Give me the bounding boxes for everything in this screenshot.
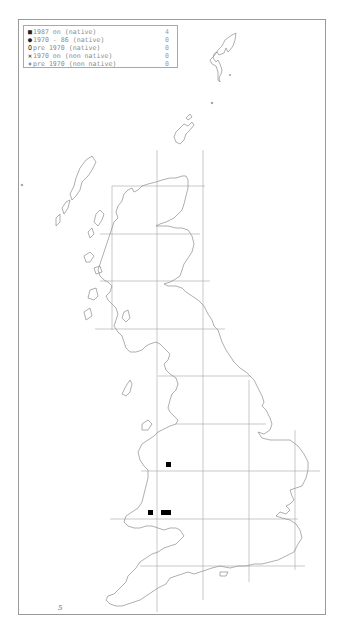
legend-item-1970-86-native: ●1970 - 86 (native) 0 [27,36,175,44]
legend-count: 0 [165,36,169,44]
record-square-icon [166,510,171,515]
legend-label: 1970 on (non native) [33,52,112,60]
legend-item-1970-on-non-native: ✕1970 on (non native) 0 [27,52,175,60]
devon-north-coast [136,536,184,568]
england-south-coast [106,560,278,606]
map-legend: ■1987 on (native) 4 ●1970 - 86 (native) … [23,25,178,68]
legend-count: 0 [165,60,169,68]
gb-outline-map [0,0,339,630]
legend-count: 0 [165,44,169,52]
isle-of-man [122,380,132,396]
orkney-islands [174,122,194,144]
record-square-icon [148,510,153,515]
legend-item-pre-1970-native: Opre 1970 (native) 0 [27,44,175,52]
coastline [21,33,308,606]
record-square-icon [166,462,171,467]
legend-label: 1987 on (native) [33,28,97,36]
legend-label: pre 1970 (native) [33,44,101,52]
outer-hebrides [70,156,96,200]
shetland-islands [210,33,236,82]
scotland-west-coast [98,201,160,352]
legend-count: 4 [165,28,169,36]
legend-item-1987-on-native: ■1987 on (native) 4 [27,28,175,36]
legend-label: pre 1970 (non native) [33,60,116,68]
isle-of-wight [220,572,228,576]
legend-count: 0 [165,52,169,60]
severn-estuary [128,526,184,536]
anglesey [142,420,152,430]
legend-item-pre-1970-non-native: +pre 1970 (non native) 0 [27,60,175,68]
legend-label: 1970 - 86 (native) [33,36,104,44]
grid-lines [95,150,320,612]
scotland-mainland [122,176,222,342]
scilly-isles-marker: 5 [58,604,62,612]
